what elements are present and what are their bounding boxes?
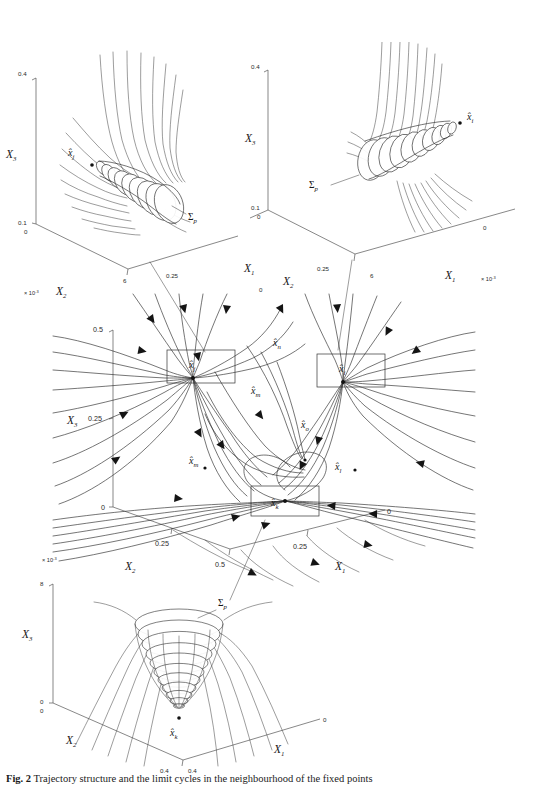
main-streamlines-bottom-node <box>53 452 475 561</box>
main-x3-tick-0: 0 <box>101 503 105 512</box>
inset-bot-x3-axis-label: X3 <box>21 628 33 642</box>
main-x1-tick-0: 0 <box>387 507 391 516</box>
main-label-xm-bottom: x̂m <box>188 455 198 468</box>
inset-bot-x3-multiplier: × 10-3 <box>42 556 57 563</box>
inset-bot-sigma-label: Σp <box>218 598 228 610</box>
inset-bot-x1-axis-label: X1 <box>273 743 284 757</box>
inset-bot-x3-tick-8: 8 <box>40 580 44 587</box>
inset-bot-x1-tick-0: 0 <box>323 716 327 723</box>
figure-caption: Fig. 2 Trajectory structure and the limi… <box>6 772 534 790</box>
main-streamlines-right-saddle <box>273 294 475 500</box>
inset-bot-limit-cycle-surface <box>135 609 223 708</box>
main-streamlines-left-saddle <box>53 294 305 504</box>
main-label-xl: x̂l <box>334 461 341 474</box>
inset-bottom-panel: x̂k Σp X3 X2 X1 8 0 0 × 10-3 0.4 0.4 0 <box>20 548 350 778</box>
main-x3-tick-025: 0.25 <box>88 414 102 423</box>
inset-bot-x3-tick-0: 0 <box>40 698 44 705</box>
inset-bot-point-label: x̂k <box>169 727 178 740</box>
main-label-xi: x̂i <box>338 363 345 376</box>
caption-label: Fig. 2 <box>6 773 31 784</box>
main-x3-tick-05: 0.5 <box>93 325 103 334</box>
main-label-xk: x̂k <box>270 497 279 510</box>
main-label-xo: x̂o <box>300 419 309 432</box>
figure-root: x̂j Σp X3 X2 X1 0.4 0.1 0 6 × 10-3 0.25 <box>0 0 537 790</box>
inset-bot-x2-tick-0: 0 <box>40 707 44 714</box>
inset-bot-fixed-point <box>177 716 181 720</box>
main-axes <box>109 330 385 555</box>
main-x2-tick-025: 0.25 <box>155 539 169 548</box>
main-label-xm-left: x̂m <box>250 385 260 398</box>
caption-text: Trajectory structure and the limit cycle… <box>34 773 373 784</box>
main-x3-axis-label: X3 <box>66 414 78 428</box>
main-streamlines-central-focus <box>205 346 305 477</box>
inset-bot-x2-axis-label: X2 <box>65 734 77 748</box>
